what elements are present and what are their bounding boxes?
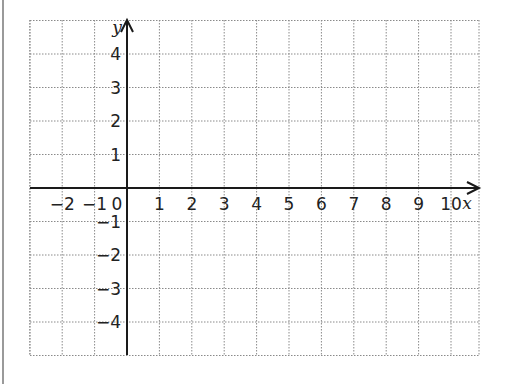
coordinate-grid: −2−1012345678910x4321−1−2−3−4y [0, 0, 508, 384]
x-tick-label: 6 [316, 194, 327, 214]
x-tick-label: 8 [381, 194, 392, 214]
x-tick-label: 2 [186, 194, 197, 214]
y-tick-label: −1 [96, 212, 121, 232]
y-axis-label: y [111, 17, 122, 37]
y-tick-label: 2 [110, 111, 121, 131]
x-tick-label: 4 [251, 194, 262, 214]
y-tick-label: −4 [96, 312, 121, 332]
x-tick-label: 3 [219, 194, 230, 214]
y-tick-label: −3 [96, 279, 121, 299]
x-tick-label: 5 [284, 194, 295, 214]
x-tick-label: 10 [440, 194, 462, 214]
x-tick-label: 1 [154, 194, 165, 214]
y-tick-label: 3 [110, 78, 121, 98]
x-tick-label: 7 [348, 194, 359, 214]
y-tick-label: 4 [110, 44, 121, 64]
x-tick-label: 9 [413, 194, 424, 214]
y-tick-label: 1 [110, 145, 121, 165]
y-tick-label: −2 [96, 245, 121, 265]
x-tick-label: −2 [50, 194, 75, 214]
x-axis-label: x [462, 193, 472, 213]
